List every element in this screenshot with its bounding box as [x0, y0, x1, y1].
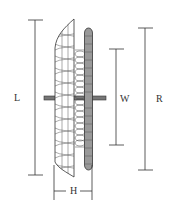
label-W: W [120, 94, 129, 104]
diagram-canvas [0, 0, 179, 210]
label-L: L [14, 93, 20, 103]
outer-ring [85, 28, 93, 170]
label-H: H [70, 186, 77, 196]
dimension-L [28, 20, 43, 175]
dimension-R [138, 28, 153, 170]
label-R: R [156, 94, 163, 104]
